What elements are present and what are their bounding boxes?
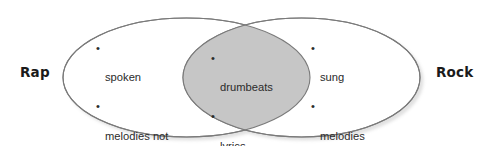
list-item: • lyrics	[211, 109, 289, 146]
left-set-label: Rap	[20, 64, 50, 80]
bullet-icon: •	[96, 99, 105, 114]
list-item-label: sung	[320, 70, 393, 85]
list-item: • melodies important	[311, 99, 393, 146]
list-item-label: lyrics	[220, 139, 289, 146]
bullet-icon: •	[211, 51, 220, 66]
right-only-item-list: • sung • melodies important	[311, 41, 393, 146]
list-item-label: drumbeats	[220, 80, 289, 95]
bullet-icon: •	[311, 41, 320, 56]
venn-diagram-canvas: Rap Rock • spoken • melodies not importa…	[0, 0, 493, 146]
bullet-icon: •	[311, 99, 320, 114]
intersection-item-list: • drumbeats • lyrics • rhymes	[211, 51, 289, 146]
right-set-label: Rock	[436, 64, 473, 80]
list-item: • drumbeats	[211, 51, 289, 109]
list-item: • spoken	[96, 41, 192, 99]
bullet-icon: •	[211, 109, 220, 124]
list-item-label: melodies important	[320, 129, 393, 146]
left-only-item-list: • spoken • melodies not important	[96, 41, 192, 146]
bullet-icon: •	[96, 41, 105, 56]
list-item: • melodies not important	[96, 99, 192, 146]
list-item: • sung	[311, 41, 393, 99]
list-item-label: melodies not important	[105, 129, 192, 146]
list-item-label: spoken	[105, 70, 192, 85]
